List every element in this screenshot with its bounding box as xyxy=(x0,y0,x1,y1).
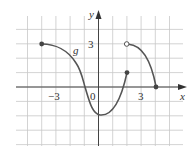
y-tick-label-3: 3 xyxy=(88,38,94,50)
x-axis-label: x xyxy=(179,90,185,102)
closed-endpoint-left xyxy=(39,42,44,47)
grid xyxy=(16,16,183,146)
function-graph: y x g 3 −3 0 3 xyxy=(0,0,194,149)
curve-piece-2 xyxy=(129,44,157,86)
x-tick-label-3: 3 xyxy=(138,90,144,102)
x-tick-label-0: 0 xyxy=(90,90,96,102)
open-endpoint xyxy=(124,42,129,47)
y-axis-label: y xyxy=(88,8,94,20)
closed-endpoint-middle xyxy=(125,70,130,75)
function-label: g xyxy=(73,44,79,56)
x-tick-label-neg3: −3 xyxy=(48,90,60,102)
closed-endpoint-right xyxy=(154,85,159,90)
y-axis-arrow-icon xyxy=(96,10,102,19)
y-axis xyxy=(96,10,102,146)
